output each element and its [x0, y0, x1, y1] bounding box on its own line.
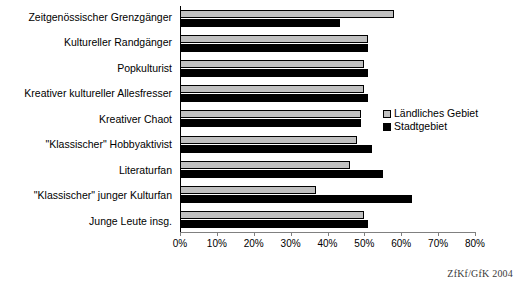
- bar-group: [180, 85, 476, 106]
- legend: Ländliches Gebiet Stadtgebiet: [383, 107, 478, 133]
- chart-container: Zeitgenössischer Grenzgänger Kultureller…: [0, 0, 519, 285]
- x-axis-tick: [328, 232, 329, 236]
- x-axis-tick: [401, 232, 402, 236]
- x-tick-label: 50%: [344, 238, 384, 249]
- x-axis-tick: [217, 232, 218, 236]
- category-label: "Klassischer" junger Kulturfan: [0, 190, 172, 201]
- bar-rural: [180, 35, 368, 43]
- legend-item-rural: Ländliches Gebiet: [383, 107, 478, 120]
- x-tick-label: 80%: [455, 238, 495, 249]
- bar-rural: [180, 60, 364, 68]
- bar-urban: [180, 195, 412, 203]
- x-tick-label: 70%: [418, 238, 458, 249]
- bar-rural: [180, 186, 316, 194]
- bar-urban: [180, 170, 383, 178]
- legend-label-urban: Stadtgebiet: [394, 120, 447, 133]
- bar-urban: [180, 220, 368, 228]
- bar-group: [180, 10, 476, 31]
- category-label: Kreativer Chaot: [0, 114, 172, 125]
- bar-rural: [180, 110, 361, 118]
- x-tick-label: 30%: [271, 238, 311, 249]
- bar-rural: [180, 161, 350, 169]
- bar-group: [180, 60, 476, 81]
- x-axis-tick: [438, 232, 439, 236]
- bar-rural: [180, 10, 394, 18]
- category-label: Kultureller Randgänger: [0, 37, 172, 48]
- bar-urban: [180, 69, 368, 77]
- source-attribution: ZfKf/GfK 2004: [447, 268, 513, 279]
- bar-group: [180, 161, 476, 182]
- legend-item-urban: Stadtgebiet: [383, 120, 478, 133]
- x-axis-tick: [180, 232, 181, 236]
- bar-group: [180, 136, 476, 157]
- bar-urban: [180, 94, 368, 102]
- x-tick-label: 60%: [381, 238, 421, 249]
- bar-urban: [180, 44, 368, 52]
- x-tick-label: 40%: [308, 238, 348, 249]
- bar-rural: [180, 211, 364, 219]
- category-label: "Klassischer" Hobbyaktivist: [0, 139, 172, 150]
- legend-swatch-urban-icon: [383, 123, 391, 131]
- x-axis-tick: [364, 232, 365, 236]
- legend-swatch-rural-icon: [383, 110, 391, 118]
- category-label: Junge Leute insg.: [0, 216, 172, 227]
- x-axis-tick: [291, 232, 292, 236]
- category-label-column: Zeitgenössischer Grenzgänger Kultureller…: [0, 6, 177, 232]
- x-axis-tick: [254, 232, 255, 236]
- bar-group: [180, 211, 476, 232]
- bar-urban: [180, 19, 340, 27]
- bar-urban: [180, 119, 361, 127]
- x-tick-label: 10%: [197, 238, 237, 249]
- bar-group: [180, 35, 476, 56]
- bar-urban: [180, 145, 372, 153]
- bar-rural: [180, 136, 357, 144]
- category-label: Literaturfan: [0, 165, 172, 176]
- bar-group: [180, 186, 476, 207]
- x-axis-tick: [475, 232, 476, 236]
- category-label: Popkulturist: [0, 63, 172, 74]
- legend-label-rural: Ländliches Gebiet: [394, 107, 478, 120]
- x-tick-label: 0%: [160, 238, 200, 249]
- category-label: Zeitgenössischer Grenzgänger: [0, 12, 172, 23]
- x-tick-label: 20%: [234, 238, 274, 249]
- bar-rural: [180, 85, 364, 93]
- category-label: Kreativer kultureller Allesfresser: [0, 88, 172, 99]
